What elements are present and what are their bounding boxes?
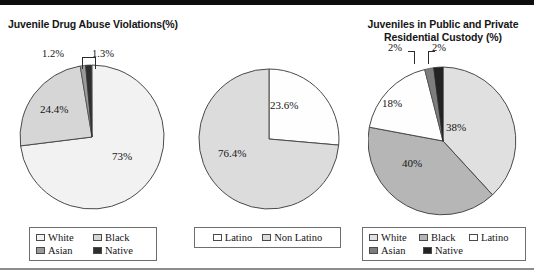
legend-row: Latino Non Latino [201,231,334,244]
pie-label-18-percent: 18% [382,97,402,109]
leader-line-3-b [428,51,429,64]
legend-label-latino: Latino [225,232,252,243]
pie-chart-1-svg [18,63,166,211]
pie-label-1-3-percent: 1.3% [92,48,114,59]
legend-row: White Black [36,231,150,244]
legend-swatch-non-latino-icon [262,234,271,241]
legend-chart-3: White Black Latino Asian Native [362,227,526,261]
legend-label-black: Black [105,232,130,243]
legend-label-latino: Latino [481,232,508,243]
legend-item-latino[interactable]: Latino [469,232,519,243]
legend-swatch-latino-icon [213,234,222,241]
legend-swatch-asian-icon [36,247,45,254]
legend-swatch-black-icon [93,234,102,241]
legend-label-native: Native [435,245,463,256]
chart-title-1: Juvenile Drug Abuse Violations(%) [0,18,186,31]
legend-label-asian: Asian [48,245,73,256]
legend-label-black: Black [431,232,456,243]
legend-label-white: White [48,232,74,243]
legend-swatch-black-icon [419,234,428,241]
legend-label-white: White [381,232,407,243]
pie-label-2-percent-native: 2% [432,42,446,53]
legend-swatch-latino-icon [469,234,478,241]
pie-label-24-4-percent: 24.4% [40,103,68,115]
legend-row: White Black Latino [369,231,519,244]
pie-label-76-4-percent: 76.4% [218,147,246,159]
legend-item-latino[interactable]: Latino [213,232,252,243]
pie-chart-2-svg [198,63,340,215]
legend-item-white[interactable]: White [36,232,93,243]
legend-item-native[interactable]: Native [423,245,477,256]
pie-label-23-6-percent: 23.6% [270,99,298,111]
legend-swatch-native-icon [93,247,102,254]
chart-panel-juvenile-drug-abuse-violations: Juvenile Drug Abuse Violations(%) 1.2% 1… [0,5,186,263]
legend-swatch-asian-icon [369,247,378,254]
leader-line-1-a [82,57,83,69]
legend-item-black[interactable]: Black [419,232,469,243]
legend-swatch-native-icon [423,247,432,254]
chart-panel-juveniles-residential-custody: Juveniles in Public and Private Resident… [352,5,534,263]
leader-line-3-a-tick [408,51,415,52]
legend-label-non-latino: Non Latino [274,232,322,243]
legend-label-native: Native [105,245,133,256]
leader-line-1-a-tick [82,57,89,58]
legend-item-non-latino[interactable]: Non Latino [262,232,322,243]
leader-line-3-a [414,51,415,64]
pie-chart-3 [368,63,518,219]
pie-chart-3-svg [368,63,518,219]
legend-item-white[interactable]: White [369,232,419,243]
chart-title-3: Juveniles in Public and Private Resident… [352,18,534,44]
bottom-rule [0,268,534,270]
pie-label-73-percent: 73% [112,150,132,162]
legend-swatch-white-icon [36,234,45,241]
legend-row: Asian Native [369,244,519,257]
legend-chart-1: White Black Asian Native [29,227,157,261]
pie-label-40-percent: 40% [402,157,422,169]
legend-item-asian[interactable]: Asian [36,245,93,256]
legend-swatch-white-icon [369,234,378,241]
legend-row: Asian Native [36,244,150,257]
legend-chart-2: Latino Non Latino [194,227,341,248]
pie-chart-2 [198,63,340,215]
chart-panel-latino-non-latino: 23.6% 76.4% Latino Non Latino [186,5,352,263]
pie-label-1-2-percent: 1.2% [42,48,64,59]
pie-chart-1 [18,63,166,211]
pie-label-38-percent: 38% [446,121,466,133]
legend-label-asian: Asian [381,245,406,256]
pie-label-2-percent-asian: 2% [388,42,402,53]
chart-title-3-line1: Juveniles in Public and Private [352,18,534,31]
legend-item-native[interactable]: Native [93,245,150,256]
legend-item-asian[interactable]: Asian [369,245,423,256]
legend-item-black[interactable]: Black [93,232,150,243]
